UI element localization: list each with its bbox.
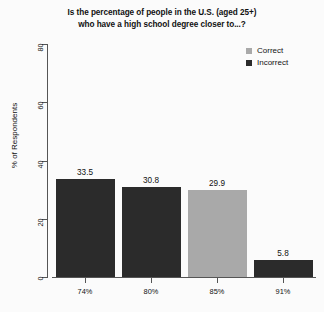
bar <box>188 190 247 277</box>
chart-title-line-1: Is the percentage of people in the U.S. … <box>0 7 324 19</box>
bar <box>122 187 181 277</box>
x-axis-tick <box>217 278 218 283</box>
y-axis-tick-label-wrap: 0 <box>14 272 40 282</box>
bar-chart: Is the percentage of people in the U.S. … <box>0 0 324 312</box>
x-axis-tick-label: 74% <box>65 287 105 296</box>
y-axis-tick-label: 40 <box>36 160 45 182</box>
y-axis-tick-label-wrap: 80 <box>14 39 40 49</box>
chart-title: Is the percentage of people in the U.S. … <box>0 7 324 30</box>
bar-value-label: 33.5 <box>62 168 108 177</box>
x-axis-tick <box>85 278 86 283</box>
bar <box>254 260 313 277</box>
bar-value-label: 29.9 <box>194 179 240 188</box>
y-axis-tick-label: 60 <box>36 102 45 124</box>
bar-value-label: 5.8 <box>260 249 306 258</box>
y-axis-tick-label: 0 <box>36 277 45 299</box>
y-axis-tick-label: 80 <box>36 44 45 66</box>
x-axis-tick <box>283 278 284 283</box>
y-axis-line <box>47 44 48 278</box>
x-axis-tick-label: 85% <box>197 287 237 296</box>
y-axis-tick-label-wrap: 20 <box>14 214 40 224</box>
x-axis-tick-label: 91% <box>263 287 303 296</box>
bar <box>56 179 115 277</box>
plot-area <box>52 44 316 277</box>
x-axis-tick <box>151 278 152 283</box>
x-axis-tick-label: 80% <box>131 287 171 296</box>
y-axis-tick-label-wrap: 60 <box>14 97 40 107</box>
chart-title-line-2: who have a high school degree closer to.… <box>0 19 324 31</box>
y-axis-tick-label-wrap: 40 <box>14 156 40 166</box>
y-axis-tick-label: 20 <box>36 218 45 240</box>
x-axis-line <box>52 277 316 278</box>
bar-value-label: 30.8 <box>128 176 174 185</box>
